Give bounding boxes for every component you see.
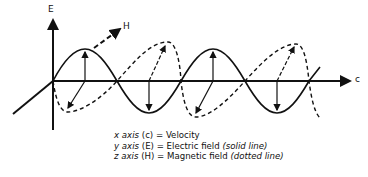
legend-row-y: y axis (E) = Electric field (solid line) [114,141,284,152]
legend: x axis (c) = Velocity y axis (E) = Elect… [114,130,284,162]
c-axis-label: c [355,74,360,84]
h-axis-label: H [123,21,130,31]
legend-row-x: x axis (c) = Velocity [114,130,284,141]
h-axis-back [13,81,53,114]
legend-row-z: z axis (H) = Magnetic field (dotted line… [114,151,284,162]
e-axis-label: E [48,4,54,14]
h-axis-arrow [94,29,120,48]
